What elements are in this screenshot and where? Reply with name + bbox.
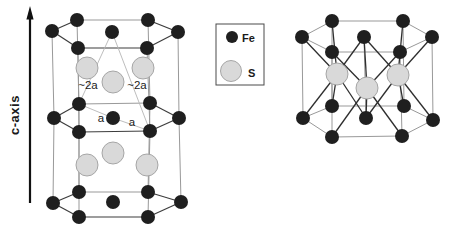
bond-line (178, 32, 179, 118)
bond-line (432, 37, 433, 120)
fe-atom (295, 30, 309, 44)
bond-line (79, 131, 150, 132)
s-atom (102, 71, 124, 93)
s-atom (326, 63, 348, 85)
fe-atom (141, 13, 155, 27)
s-atom (136, 154, 158, 176)
figure-canvas: c-axis ~2a ~2a a a Fe S (0, 0, 452, 231)
fe-atom (325, 130, 339, 144)
fe-atom (171, 25, 185, 39)
fe-atom (396, 14, 410, 28)
s-atom (387, 64, 409, 86)
fe-atom (325, 45, 339, 59)
fe-atom (72, 97, 86, 111)
right-structure-coordination (295, 14, 440, 144)
legend-s-label: S (248, 67, 255, 79)
c-axis-label: c-axis (7, 95, 22, 135)
fe-atom (46, 196, 60, 210)
fe-atom (325, 14, 339, 28)
legend-s-swatch-icon (221, 61, 242, 82)
fe-atom (143, 96, 157, 110)
fe-atom (105, 25, 119, 39)
bond-length-label-a-right: a (129, 116, 136, 128)
fe-atom (70, 13, 84, 27)
fe-atom (140, 41, 154, 55)
fe-atom (426, 113, 440, 127)
legend-fe-label: Fe (242, 32, 255, 44)
fe-atom (397, 99, 411, 113)
fe-atom (72, 210, 86, 224)
s-atom (102, 142, 124, 164)
fe-atom (106, 195, 120, 209)
fe-atom (141, 210, 155, 224)
fe-atom (357, 30, 371, 44)
fe-atom (425, 30, 439, 44)
bond-line (403, 21, 404, 106)
fe-atom (296, 111, 310, 125)
s-atom (76, 57, 98, 79)
fe-atom (325, 99, 339, 113)
legend: Fe S (216, 24, 264, 85)
bond-line (53, 118, 54, 203)
bond-line (52, 31, 54, 118)
bond-length-label-2a-right: ~2a (127, 79, 147, 91)
bond-line (332, 136, 402, 137)
fe-atom (143, 124, 157, 138)
s-atom (76, 154, 98, 176)
bond-line (302, 37, 303, 118)
fe-atom (393, 45, 407, 59)
fe-atom (47, 111, 61, 125)
c-axis-arrowhead-icon (26, 6, 33, 20)
bond-length-label-a-left: a (98, 112, 105, 124)
fe-atom (359, 111, 373, 125)
fe-atom (71, 41, 85, 55)
fe-atom (174, 195, 188, 209)
fe-atom (106, 111, 120, 125)
left-structure-unit-cell (45, 13, 188, 224)
crystal-structure-figure: c-axis ~2a ~2a a a Fe S (0, 0, 452, 231)
c-axis-arrow: c-axis (7, 6, 34, 203)
s-atom (132, 57, 154, 79)
bond-length-label-2a-left: ~2a (78, 79, 98, 91)
fe-atom (172, 111, 186, 125)
fe-atom (141, 185, 155, 199)
bond-line (179, 118, 181, 202)
fe-atom (395, 129, 409, 143)
s-atom (356, 77, 378, 99)
legend-fe-swatch-icon (226, 31, 238, 43)
fe-atom (72, 185, 86, 199)
fe-atom (45, 24, 59, 38)
fe-atom (72, 125, 86, 139)
